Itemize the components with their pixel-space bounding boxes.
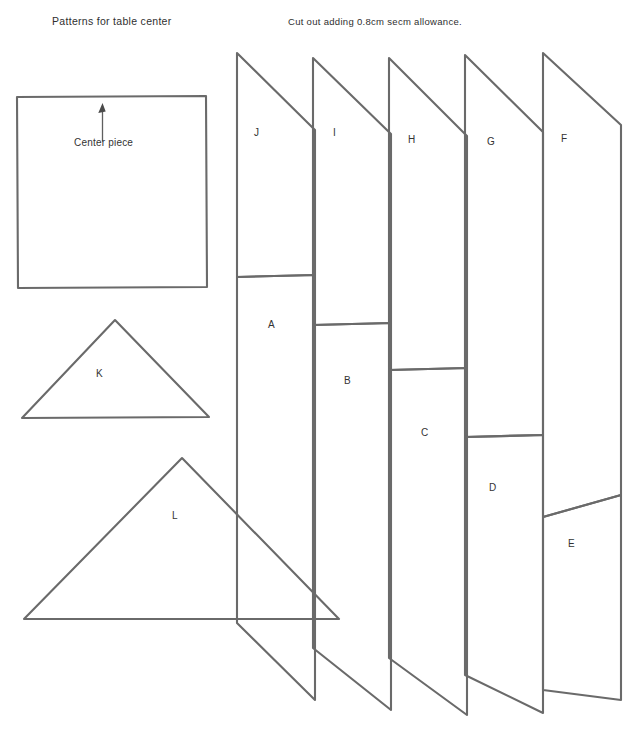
piece-label-i: I xyxy=(333,127,336,138)
strip-piece-c xyxy=(389,368,467,715)
piece-label-g: G xyxy=(487,136,495,147)
center-piece-label: Center piece xyxy=(74,137,133,148)
triangle-shapes xyxy=(22,320,339,619)
strip-piece-i xyxy=(313,58,391,325)
piece-label-a: A xyxy=(268,319,275,330)
strip-piece-h xyxy=(389,58,467,370)
center-piece-shape xyxy=(17,96,207,288)
piece-label-d: D xyxy=(489,482,496,493)
strip-piece-e xyxy=(543,495,621,700)
piece-label-k: K xyxy=(96,368,103,379)
piece-label-h: H xyxy=(408,134,415,145)
strip-piece-a xyxy=(237,275,315,700)
strip-piece-b xyxy=(313,323,391,710)
center-piece-outline xyxy=(17,96,207,288)
triangle-outline-l xyxy=(24,458,339,619)
strip-piece-f xyxy=(543,53,621,517)
strip-piece-g xyxy=(465,55,543,437)
triangle-outline-k xyxy=(22,320,209,418)
strip-piece-j xyxy=(237,53,315,277)
piece-label-l: L xyxy=(172,510,178,521)
strip-shapes xyxy=(237,53,621,715)
piece-label-c: C xyxy=(421,427,428,438)
piece-label-b: B xyxy=(344,375,351,386)
pattern-drawing xyxy=(0,0,642,734)
piece-label-f: F xyxy=(561,133,567,144)
piece-label-j: J xyxy=(254,127,259,138)
grainline-arrow-head xyxy=(98,103,105,113)
piece-label-e: E xyxy=(568,538,575,549)
strip-piece-d xyxy=(465,435,543,713)
pattern-sheet: Patterns for table center Cut out adding… xyxy=(0,0,642,734)
